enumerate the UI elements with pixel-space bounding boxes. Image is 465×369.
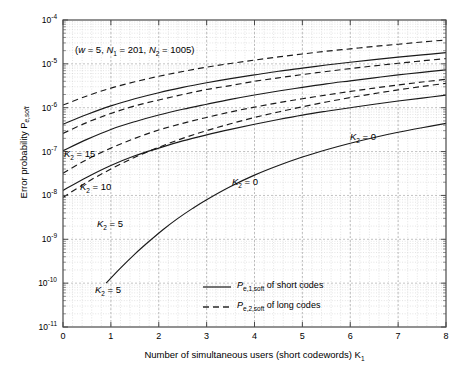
y-tick-label: 10-9 — [0, 232, 57, 244]
y-tick-label: 10-8 — [0, 188, 57, 200]
y-tick-label: 10-10 — [0, 276, 57, 288]
x-tick-label: 6 — [340, 331, 360, 341]
x-tick-label: 5 — [292, 331, 312, 341]
x-tick-label: 2 — [149, 331, 169, 341]
curve-label: K2 = 15 — [64, 148, 95, 161]
x-axis-label: Number of simultaneous users (short code… — [63, 349, 446, 362]
x-tick-label: 1 — [101, 331, 121, 341]
x-tick-label: 8 — [436, 331, 456, 341]
y-axis-label-text: Error probability P — [18, 122, 29, 198]
annot-w-value: = 5, — [85, 44, 106, 55]
legend-entry: Pe,1,soft of short codes — [237, 280, 323, 292]
x-tick-label: 3 — [197, 331, 217, 341]
x-axis-label-text: Number of simultaneous users (short code… — [144, 349, 360, 360]
annot-n2-value: = 1005) — [159, 44, 194, 55]
curve-label: K2 = 10 — [80, 181, 111, 194]
parameter-annotation: (w = 5, N1 = 201, N2 = 1005) — [75, 44, 195, 57]
curve-label: K2 = 0 — [232, 176, 258, 189]
annot-n1-value: = 201, — [117, 44, 149, 55]
curve-label: K2 = 0 — [350, 131, 376, 144]
legend-entry: Pe,2,soft of long codes — [237, 300, 320, 312]
y-tick-label: 10-7 — [0, 145, 57, 157]
x-tick-label: 4 — [245, 331, 265, 341]
curve-label: K2 = 5 — [95, 284, 121, 297]
annot-n2: N — [149, 44, 156, 55]
y-tick-label: 10-5 — [0, 57, 57, 69]
y-tick-label: 10-4 — [0, 13, 57, 25]
x-tick-label: 0 — [53, 331, 73, 341]
x-tick-label: 7 — [388, 331, 408, 341]
y-tick-label: 10-11 — [0, 320, 57, 332]
figure-container: Error probability Pe,soft Number of simu… — [0, 0, 465, 369]
y-tick-label: 10-6 — [0, 101, 57, 113]
x-axis-label-sub: 1 — [361, 355, 365, 362]
curve-label: K2 = 5 — [97, 218, 123, 231]
